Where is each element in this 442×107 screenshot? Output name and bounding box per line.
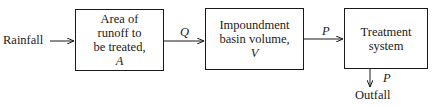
box-line: be treated, [93,40,145,54]
p-outfall-label: P [383,71,391,86]
box-line: Treatment [361,25,412,39]
box-symbol: V [251,46,259,60]
rainfall-label: Rainfall [3,33,43,48]
runoff-area-box: Area of runoff to be treated, A [75,9,164,71]
p-label: P [322,24,330,39]
box-line: system [369,39,404,53]
impoundment-basin-box: Impoundment basin volume, V [205,8,304,70]
treatment-system-box: Treatment system [344,8,428,69]
box-line: runoff to [98,26,142,40]
box-symbol: A [116,54,124,68]
box-line: Area of [101,12,139,26]
outfall-label: Outfall [355,88,390,103]
box-line: basin volume, [219,32,289,46]
q-label: Q [180,25,189,40]
box-line: Impoundment [219,18,289,32]
